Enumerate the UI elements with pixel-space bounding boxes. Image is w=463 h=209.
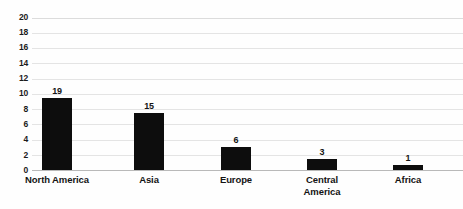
x-axis-line <box>32 170 463 171</box>
y-tick-label-18: 18 <box>4 28 28 37</box>
bar-group-asia <box>134 0 164 170</box>
y-tick-label-4: 4 <box>4 135 28 144</box>
y-tick-label-12: 12 <box>4 74 28 83</box>
bar-group-africa <box>393 0 423 170</box>
x-category-label-europe: Europe <box>201 174 271 186</box>
bar-value-africa: 1 <box>393 153 423 163</box>
y-tick-label-16: 16 <box>4 43 28 52</box>
bar-value-central-america: 3 <box>307 147 337 157</box>
y-tick-label-2: 2 <box>4 151 28 160</box>
y-tick-label-6: 6 <box>4 120 28 129</box>
x-category-label-central-america: Central America <box>292 174 352 197</box>
bar-value-europe: 6 <box>221 135 251 145</box>
y-tick-label-10: 10 <box>4 89 28 98</box>
bar-africa <box>393 165 423 170</box>
y-tick-label-14: 14 <box>4 59 28 68</box>
x-category-label-asia: Asia <box>114 174 184 186</box>
bar-north-america <box>42 98 72 170</box>
x-category-label-africa: Africa <box>378 174 438 186</box>
bar-chart: 20 18 16 14 12 10 8 6 4 2 0 19 15 6 3 1 … <box>0 0 463 209</box>
bar-value-north-america: 19 <box>42 86 72 96</box>
y-tick-label-8: 8 <box>4 105 28 114</box>
y-tick-label-20: 20 <box>4 13 28 22</box>
x-category-label-north-america: North America <box>12 174 102 186</box>
bar-europe <box>221 147 251 170</box>
bar-value-asia: 15 <box>134 101 164 111</box>
bar-group-north-america <box>42 0 72 170</box>
bar-group-central-america <box>307 0 337 170</box>
bar-central-america <box>307 159 337 170</box>
bar-asia <box>134 113 164 170</box>
